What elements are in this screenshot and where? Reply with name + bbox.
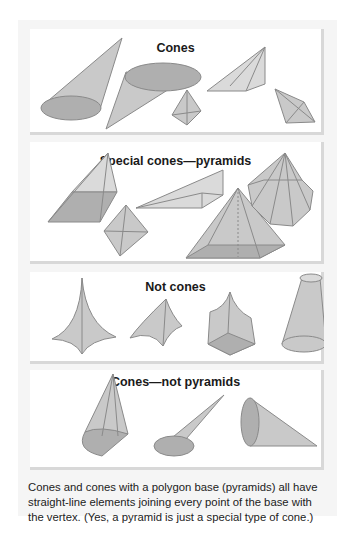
not-cones-illustration [30,272,324,364]
non-pyramid-cones-illustration [30,370,324,470]
panel-cones: Cones [30,29,324,135]
pyramids-illustration [30,142,324,264]
panel-cones-not-pyramids: Cones—not pyramids [30,370,324,470]
figure-caption: Cones and cones with a polygon base (pyr… [28,480,328,525]
panel-special-cones-pyramids: Special cones—pyramids [30,142,324,264]
figure-frame: Cones Special cones—pyramids [18,20,337,516]
panel-not-cones: Not cones [30,272,324,364]
cones-illustration [30,29,324,135]
